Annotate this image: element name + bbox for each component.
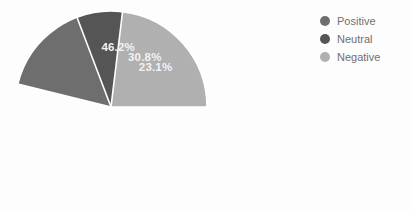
pie-slice-percentage-label: 23.1% [139,61,173,73]
legend-swatch-circle-icon [320,52,330,62]
pie-chart-figure: 46.2%30.8%23.1% Positive Neutral Negativ… [0,0,413,210]
pie-slice-group [18,11,207,107]
legend-item-negative[interactable]: Negative [320,48,410,66]
legend-item-positive[interactable]: Positive [320,12,410,30]
legend-label-negative: Negative [337,48,380,66]
legend-swatch-circle-icon [320,34,330,44]
pie-plot-area: 46.2%30.8%23.1% [12,8,210,206]
legend-label-positive: Positive [337,12,376,30]
legend-swatch-circle-icon [320,16,330,26]
legend-label-neutral: Neutral [337,30,372,48]
pie-svg: 46.2%30.8%23.1% [12,8,210,206]
legend-item-neutral[interactable]: Neutral [320,30,410,48]
chart-legend: Positive Neutral Negative [320,12,410,66]
